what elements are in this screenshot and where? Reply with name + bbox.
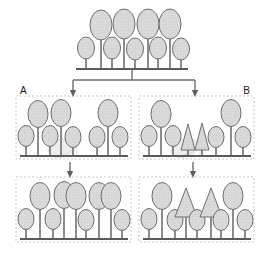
ellipse-head: [65, 127, 81, 148]
ellipse-head: [89, 127, 105, 148]
ellipse-head: [208, 127, 224, 148]
ellipse-head: [78, 210, 94, 231]
ellipse-head: [159, 9, 181, 39]
ellipse-marker: [127, 38, 144, 69]
ellipse-head: [90, 10, 112, 40]
ellipse-marker: [173, 38, 190, 69]
ellipse-marker: [213, 210, 229, 240]
branch-label-a: A: [20, 85, 27, 96]
panel-b-lower: [139, 177, 254, 242]
ellipse-marker: [78, 37, 95, 69]
triangle-head: [181, 124, 195, 150]
ellipse-marker: [45, 209, 61, 240]
ellipse-head: [30, 183, 50, 210]
ellipse-head: [18, 209, 34, 230]
top-source-panel: [76, 9, 190, 69]
ellipse-head: [152, 183, 172, 210]
triangle-marker: [195, 123, 209, 156]
panel-a-lower: [16, 177, 131, 242]
ellipse-marker: [150, 37, 167, 69]
ellipse-head: [66, 183, 86, 210]
ellipse-marker: [18, 209, 34, 240]
triangle-head: [195, 123, 209, 150]
ellipse-marker: [78, 210, 94, 240]
figure-canvas: AB: [0, 0, 256, 254]
ellipse-head: [221, 100, 241, 127]
ellipse-marker: [18, 126, 34, 157]
ellipse-marker: [235, 127, 251, 157]
ellipse-head: [223, 183, 243, 210]
ellipse-head: [51, 100, 71, 127]
ellipse-marker: [141, 209, 157, 240]
ellipse-marker: [237, 210, 253, 240]
ellipse-marker: [221, 100, 241, 157]
ellipse-head: [237, 210, 253, 231]
panel-a-upper: [16, 96, 131, 161]
ellipse-head: [151, 101, 171, 128]
ellipse-head: [114, 210, 130, 231]
ellipse-marker: [114, 210, 130, 240]
panels-layer: [16, 9, 254, 242]
ellipse-head: [141, 126, 157, 147]
ellipse-head: [113, 9, 135, 39]
ellipse-head: [150, 37, 167, 59]
ellipse-marker: [112, 127, 128, 157]
schematic-figure: AB: [0, 0, 256, 254]
ellipse-marker: [141, 126, 157, 157]
ellipse-head: [137, 9, 159, 39]
ellipse-marker: [104, 37, 121, 69]
ellipse-head: [42, 126, 58, 147]
ellipse-marker: [152, 183, 172, 240]
ellipse-head: [28, 101, 48, 128]
ellipse-marker: [30, 183, 50, 240]
branch-label-b: B: [243, 85, 250, 96]
ellipse-head: [104, 37, 121, 59]
labels-layer: AB: [20, 85, 250, 96]
panel-b-upper: [139, 96, 254, 161]
ellipse-head: [235, 127, 251, 148]
ellipse-head: [127, 38, 144, 60]
ellipse-head: [78, 37, 95, 59]
ellipse-head: [165, 126, 181, 147]
ellipse-head: [98, 100, 118, 127]
ellipse-marker: [89, 127, 105, 157]
ellipse-head: [101, 183, 121, 210]
ellipse-head: [45, 209, 61, 230]
ellipse-head: [173, 38, 190, 60]
ellipse-marker: [208, 127, 224, 157]
ellipse-head: [18, 126, 34, 147]
ellipse-marker: [223, 183, 243, 240]
ellipse-head: [141, 209, 157, 230]
ellipse-head: [112, 127, 128, 148]
ellipse-head: [213, 210, 229, 231]
